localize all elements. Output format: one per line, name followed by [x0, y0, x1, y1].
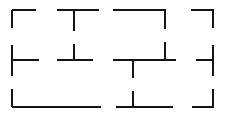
- line-figure-canvas: [0, 0, 226, 118]
- line-figure-svg: [0, 0, 226, 118]
